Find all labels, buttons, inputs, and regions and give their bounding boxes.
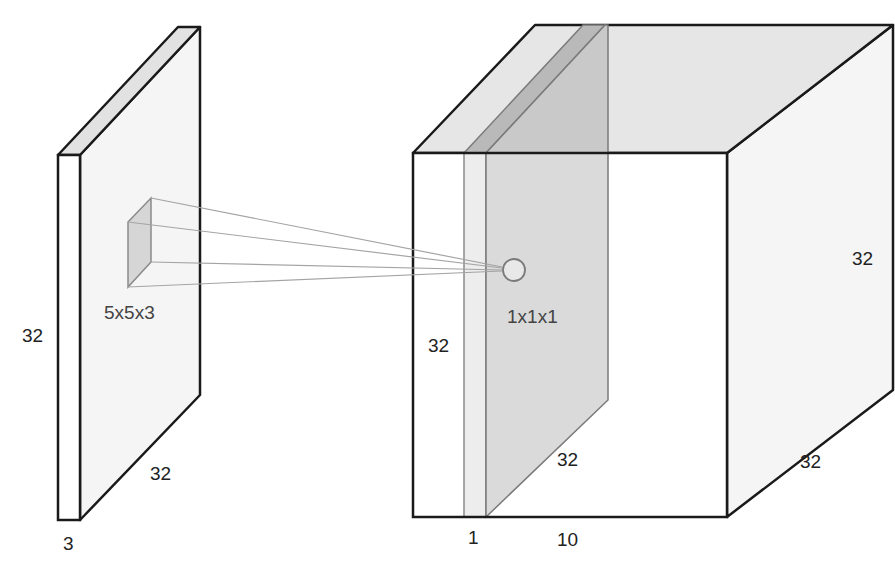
slice-thickness-label: 1 — [468, 527, 479, 548]
input-width-label: 32 — [150, 463, 171, 484]
slice-height-label: 32 — [428, 335, 449, 356]
input-depth-label: 3 — [63, 533, 74, 554]
convolution-diagram: 32 32 3 5x5x3 1x1x1 32 32 1 10 32 32 — [0, 0, 895, 570]
input-front-face — [58, 155, 80, 520]
output-height-label: 32 — [852, 248, 873, 269]
output-depth-label: 32 — [800, 451, 821, 472]
output-volume — [413, 25, 893, 517]
slice-depth-label: 32 — [557, 449, 578, 470]
filter-size-label: 5x5x3 — [104, 302, 155, 323]
output-width-label: 10 — [557, 529, 578, 550]
input-height-label: 32 — [22, 325, 43, 346]
slice-thin-band — [464, 153, 486, 517]
neuron-size-label: 1x1x1 — [507, 306, 558, 327]
output-neuron — [503, 259, 525, 281]
